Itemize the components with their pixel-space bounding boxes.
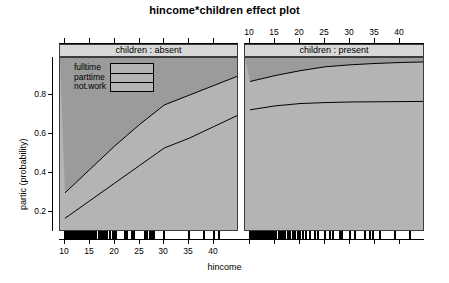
legend-key-line-notwork: [111, 91, 153, 92]
x-tick-label-panel1: 25: [129, 246, 149, 256]
x-tick-panel2: [324, 239, 325, 244]
panel-2-curves: [245, 58, 424, 231]
strip-header-children-present: children : present: [244, 44, 424, 57]
rug-mark-panel1: [188, 231, 190, 239]
y-tick-label: 0.2: [26, 206, 46, 216]
x-top-tick-label-panel2: 15: [264, 27, 284, 37]
rug-mark-panel2: [302, 231, 304, 239]
effect-plot-root: hincome*children effect plot 10152025303…: [0, 0, 449, 283]
legend-key-line-parttime: [111, 82, 153, 83]
rug-mark-panel2: [294, 231, 296, 239]
x-tick-panel2: [274, 239, 275, 244]
rug-mark-panel1: [106, 231, 108, 239]
rug-mark-panel2: [372, 231, 374, 239]
legend-key-box: [110, 63, 154, 92]
rug-mark-panel1: [109, 231, 111, 239]
rug-mark-panel1: [153, 231, 155, 239]
rug-mark-panel1: [115, 231, 117, 239]
x-tick-label-panel1: 20: [104, 246, 124, 256]
x-tick-panel1: [188, 239, 189, 244]
x-tick-label-panel1: 30: [153, 246, 173, 256]
rug-mark-panel2: [369, 231, 371, 239]
rug-mark-panel2: [409, 231, 411, 239]
x-top-tick-label-panel2: 10: [239, 27, 259, 37]
strip-label: children : present: [299, 45, 368, 55]
x-axis-label: hincome: [0, 262, 449, 272]
x-tick-panel2: [399, 239, 400, 244]
x-tick-panel1: [89, 239, 90, 244]
y-axis-label: partic (probability): [18, 138, 28, 210]
rug-mark-panel2: [275, 231, 277, 239]
x-tick-panel2: [374, 239, 375, 244]
rug-mark-panel2: [332, 231, 334, 239]
rug-mark-panel1: [203, 231, 205, 239]
rug-mark-panel2: [354, 231, 356, 239]
y-tick: [48, 133, 53, 134]
x-tick-panel1: [139, 239, 140, 244]
x-tick-label-panel1: 15: [79, 246, 99, 256]
rug-mark-panel1: [213, 231, 215, 239]
rug-mark-panel1: [218, 231, 220, 239]
panel-children-present: [244, 57, 424, 231]
legend: fulltime parttime not.work: [74, 63, 154, 92]
rug-mark-panel2: [314, 231, 316, 239]
x-tick-panel1: [213, 239, 214, 244]
page-title: hincome*children effect plot: [0, 4, 449, 16]
rug-mark-panel2: [329, 231, 331, 239]
curve-parttime: [250, 101, 424, 109]
x-top-tick-label-panel2: 25: [314, 27, 334, 37]
rug-mark-panel2: [317, 231, 319, 239]
y-tick-label: 0.6: [26, 128, 46, 138]
rug-mark-panel2: [349, 231, 351, 239]
strip-header-children-absent: children : absent: [59, 44, 238, 57]
x-top-tick-label-panel2: 40: [389, 27, 409, 37]
rug-mark-panel2: [305, 231, 307, 239]
x-tick-label-panel1: 10: [54, 246, 74, 256]
y-tick: [48, 172, 53, 173]
panel-upper-shading: [245, 58, 424, 81]
rug-mark-panel2: [324, 231, 326, 239]
rug-mark-panel1: [95, 231, 97, 239]
x-tick-label-panel1: 35: [178, 246, 198, 256]
x-top-tick-label-panel2: 30: [339, 27, 359, 37]
rug-mark-panel2: [309, 231, 311, 239]
x-tick-panel2: [299, 239, 300, 244]
legend-key-line-fulltime: [111, 73, 153, 74]
y-axis-line: [52, 57, 53, 231]
strip-label: children : absent: [115, 45, 181, 55]
rug-mark-panel2: [289, 231, 291, 239]
y-tick: [48, 211, 53, 212]
x-tick-panel1: [163, 239, 164, 244]
x-tick-panel2: [249, 239, 250, 244]
y-tick-label: 0.4: [26, 167, 46, 177]
rug-mark-panel2: [299, 231, 301, 239]
y-tick: [48, 94, 53, 95]
rug-mark-panel1: [126, 231, 128, 239]
x-tick-panel1: [114, 239, 115, 244]
rug-mark-panel2: [284, 231, 286, 239]
x-tick-panel1: [64, 239, 65, 244]
rug-mark-panel2: [364, 231, 366, 239]
x-tick-panel2: [349, 239, 350, 244]
x-top-tick-label-panel2: 35: [364, 27, 384, 37]
x-top-tick-label-panel2: 20: [289, 27, 309, 37]
x-tick-label-panel1: 40: [203, 246, 223, 256]
rug-mark-panel2: [341, 231, 343, 239]
rug-mark-panel2: [379, 231, 381, 239]
legend-labels: fulltime parttime not.work: [74, 63, 106, 92]
y-tick-label: 0.8: [26, 89, 46, 99]
rug-mark-panel1: [146, 231, 148, 239]
rug-mark-panel2: [394, 231, 396, 239]
legend-label-notwork: not.work: [74, 82, 106, 92]
rug-mark-panel1: [133, 231, 135, 239]
rug-mark-panel1: [163, 231, 165, 239]
